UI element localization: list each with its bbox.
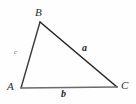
triangle-diagram: B A C a b c: [0, 0, 136, 104]
vertex-label-a: A: [7, 81, 14, 92]
triangle-graphic: [0, 0, 136, 104]
side-label-b: b: [61, 89, 66, 99]
triangle-side-c-segment: [21, 22, 40, 88]
triangle-side-b-segment: [21, 87, 117, 88]
side-label-c: c: [14, 49, 17, 56]
side-label-a: a: [82, 43, 87, 53]
vertex-label-b: B: [35, 7, 42, 18]
vertex-label-c: C: [121, 80, 128, 91]
triangle-side-a-segment: [40, 22, 117, 87]
